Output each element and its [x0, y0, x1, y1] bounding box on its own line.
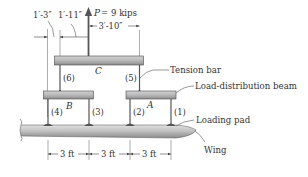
callout-tension-bar: Tension bar: [170, 65, 222, 75]
dim-bottom-2: 3 ft: [101, 149, 116, 159]
dim-bottom-1: 3 ft: [60, 149, 75, 159]
dim-bottom-3: 3 ft: [142, 149, 157, 159]
dim-1ft11in: 1′-11″: [58, 10, 82, 20]
load-symbol: P: [93, 8, 101, 18]
applied-load-arrow: P = 9 kips: [85, 7, 137, 62]
beam-a-label: A: [146, 100, 154, 110]
callout-load-distribution-beam: Load-distribution beam: [195, 81, 297, 91]
beam-a: [126, 91, 176, 99]
dim-3ft10in: 3′-10″: [99, 21, 123, 31]
beam-c: [55, 56, 144, 65]
bar-6-label: (6): [63, 73, 75, 83]
beam-b: [44, 91, 94, 99]
bottom-dimensions: 3 ft 3 ft 3 ft: [48, 140, 171, 160]
bar-2-label: (2): [133, 107, 145, 117]
beam-b-label: B: [65, 101, 73, 111]
dim-1ft3in: 1′-3″: [33, 10, 52, 20]
callout-wing: Wing: [204, 145, 227, 155]
wing: [20, 125, 196, 138]
beam-c-label: C: [95, 66, 102, 76]
callout-loading-pad: Loading pad: [196, 115, 251, 125]
bar-1-label: (1): [174, 107, 186, 117]
load-value: = 9 kips: [101, 8, 137, 18]
wing-load-test-diagram: 1′-3″ 1′-11″ 3′-10″ P = 9 kips C (6) (5)…: [0, 0, 308, 177]
bar-4-label: (4): [51, 107, 63, 117]
bar-3-label: (3): [92, 107, 104, 117]
callouts: Tension bar Load-distribution beam Loadi…: [140, 65, 297, 155]
bar-5-label: (5): [125, 73, 137, 83]
